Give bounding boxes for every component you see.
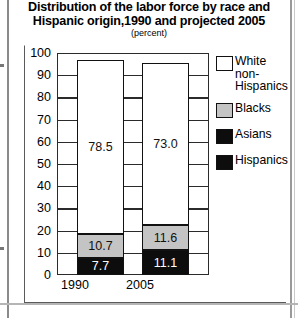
bar-segment-1990-white-non-hispanics[interactable]: 78.5 <box>77 60 124 234</box>
y-tick-label: 40 <box>37 180 51 192</box>
page-edge-rule-left <box>7 0 9 318</box>
bar-value-label: 10.7 <box>88 240 112 252</box>
chart-subtitle: (percent) <box>11 28 287 39</box>
page-edge-rule-bottom <box>0 303 298 305</box>
legend-item-white-non-hispanics[interactable]: White non-Hispanics <box>216 55 292 93</box>
legend-label: Asians <box>235 128 292 141</box>
legend-label: Hispanics <box>235 154 292 167</box>
bar-segment-1990-hispanics[interactable]: 7.7 <box>77 258 124 275</box>
y-tick-label: 90 <box>37 69 51 81</box>
bar-value-label: 11.1 <box>154 257 177 269</box>
legend-item-blacks[interactable]: Blacks <box>216 102 292 119</box>
y-tick-label: 100 <box>30 47 51 59</box>
y-tick-label: 60 <box>37 136 51 148</box>
chart-title-line-2: Hispanic origin,1990 and projected 2005 <box>11 15 287 29</box>
legend-label: Blacks <box>235 102 292 115</box>
bar-segment-2005-white-non-hispanics[interactable]: 73.0 <box>142 63 189 225</box>
y-tick-label: 30 <box>37 202 51 214</box>
plot-area: 7.7 10.7 78.5 11.1 11.6 73.0 <box>57 53 209 275</box>
chart-title-line-1: Distribution of the labor force by race … <box>11 1 287 15</box>
bar-segment-2005-hispanics[interactable]: 11.1 <box>142 250 189 275</box>
legend-label: White non-Hispanics <box>235 55 292 93</box>
y-tick-label: 10 <box>37 247 51 259</box>
legend-item-asians[interactable]: Asians <box>216 128 292 145</box>
bar-1990[interactable]: 7.7 10.7 78.5 <box>77 53 124 275</box>
bar-2005[interactable]: 11.1 11.6 73.0 <box>142 53 189 275</box>
x-tick-label-1990: 1990 <box>40 279 110 292</box>
y-tick-label: 70 <box>37 114 51 126</box>
y-tick-label: 20 <box>37 225 51 237</box>
chart-figure: Distribution of the labor force by race … <box>11 0 287 302</box>
bar-value-label: 73.0 <box>153 138 177 150</box>
x-tick-label-2005: 2005 <box>105 279 175 292</box>
page-edge-rule-right-outer <box>294 0 295 318</box>
bar-segment-2005-blacks[interactable]: 11.6 <box>142 225 189 251</box>
bar-value-label: 7.7 <box>92 260 109 272</box>
page-edge-tick-lower <box>0 247 4 250</box>
legend-swatch-black-icon <box>216 129 233 144</box>
bar-value-label: 78.5 <box>88 141 112 153</box>
legend-swatch-hatch-icon <box>216 155 233 170</box>
chart-title-block: Distribution of the labor force by race … <box>11 1 287 39</box>
chart-legend: White non-Hispanics Blacks Asians Hispan… <box>216 55 292 180</box>
legend-swatch-gray-icon <box>216 103 233 118</box>
bar-segment-1990-blacks[interactable]: 10.7 <box>77 234 124 258</box>
bar-value-label: 11.6 <box>154 232 177 244</box>
y-tick-label: 50 <box>37 158 51 170</box>
y-axis-labels: 100 90 80 70 60 50 40 30 20 10 0 <box>11 53 55 275</box>
legend-item-hispanics[interactable]: Hispanics <box>216 154 292 171</box>
legend-swatch-white-icon <box>216 56 233 71</box>
page-edge-tick-upper <box>0 64 4 67</box>
y-tick-label: 80 <box>37 91 51 103</box>
